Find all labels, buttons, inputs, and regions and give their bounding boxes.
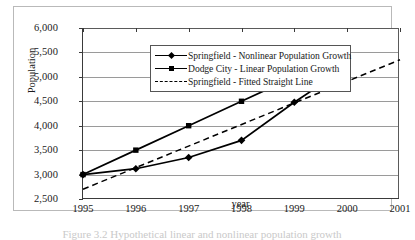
data-point-marker [185, 154, 193, 162]
y-tick-label: 3,500 [6, 145, 58, 156]
chart-legend: Springfield - Nonlinear Population Growt… [150, 45, 351, 92]
legend-label: Springfield - Nonlinear Population Growt… [188, 50, 351, 62]
data-point-marker [186, 123, 191, 128]
data-point-marker [133, 147, 138, 152]
y-axis-title: Population [26, 26, 37, 116]
legend-marker-icon [168, 52, 175, 59]
y-tick-label: 2,500 [6, 194, 58, 205]
legend-label: Springfield - Fitted Straight Line [188, 76, 313, 88]
x-tick-mark [400, 28, 401, 32]
x-axis-title: year [82, 198, 399, 209]
chart-frame: 2,5003,0003,5004,0004,5005,0005,5006,000… [13, 6, 392, 211]
legend-line-icon [155, 81, 187, 82]
legend-swatch [154, 50, 188, 62]
y-tick-label: 4,000 [6, 121, 58, 132]
data-point-marker [80, 172, 85, 177]
data-point-marker [239, 99, 244, 104]
figure-caption: Figure 3.2 Hypothetical linear and nonli… [0, 228, 404, 240]
legend-swatch [154, 76, 188, 88]
legend-item: Springfield - Nonlinear Population Growt… [154, 49, 346, 62]
y-tick-label: 3,000 [6, 170, 58, 181]
legend-label: Dodge City - Linear Population Growth [188, 63, 339, 75]
legend-item: Springfield - Fitted Straight Line [154, 75, 346, 88]
plot-area: 2,5003,0003,5004,0004,5005,0005,5006,000… [82, 28, 399, 199]
legend-marker-icon [169, 66, 174, 71]
legend-item: Dodge City - Linear Population Growth [154, 62, 346, 75]
legend-swatch [154, 63, 188, 75]
